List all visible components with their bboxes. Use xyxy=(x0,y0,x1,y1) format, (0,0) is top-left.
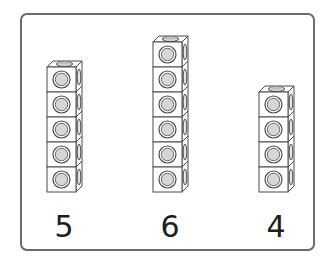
stack-count-label-3: 4 xyxy=(256,210,296,244)
cube-stack-1 xyxy=(47,61,82,192)
stack-count-label-2: 6 xyxy=(150,210,190,244)
cube-stack-3 xyxy=(259,86,294,192)
cube-stack-2 xyxy=(153,36,188,192)
stack-count-label-1: 5 xyxy=(44,210,84,244)
